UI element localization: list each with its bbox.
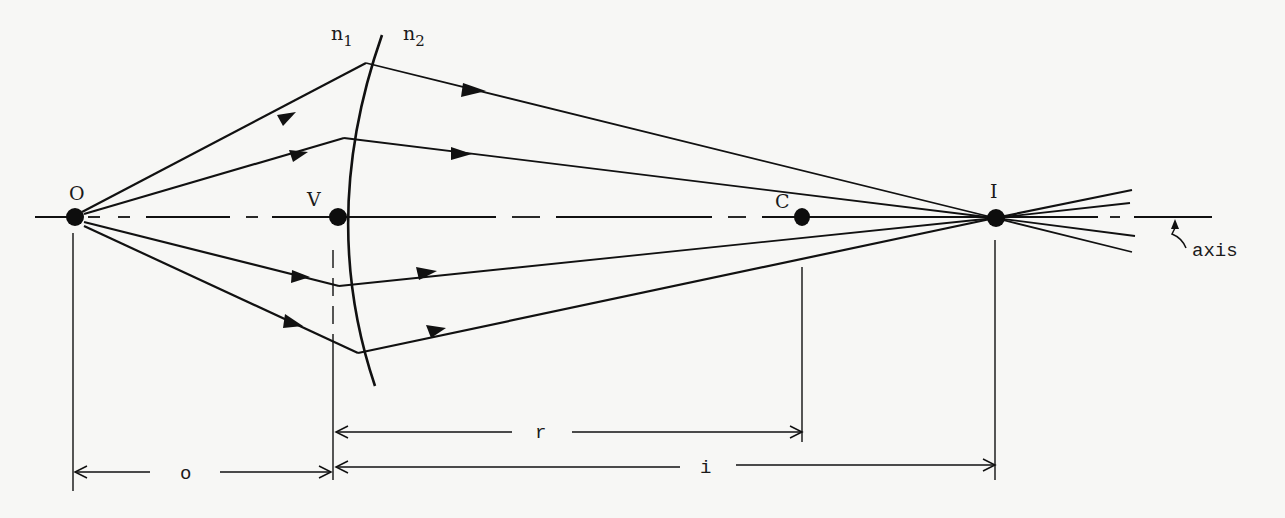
incident-arrowheads: [277, 112, 310, 328]
extension-lines: [73, 233, 995, 491]
medium-n1-label: n1: [331, 22, 353, 50]
svg-text:n2: n2: [403, 22, 425, 50]
axis-pointer: [1171, 219, 1186, 248]
svg-text:n1: n1: [331, 22, 353, 50]
vertex-point: [329, 208, 347, 226]
refracted-arrowheads: [416, 83, 486, 338]
image-distance-dimension: i: [336, 457, 995, 479]
object-distance-dimension: o: [75, 463, 331, 485]
image-distance-label: i: [700, 457, 711, 479]
refraction-diagram: O V C I n1 n2 axis r o: [0, 0, 1285, 518]
axis-label: axis: [1192, 240, 1238, 262]
vertex-label: V: [306, 188, 321, 210]
refracted-rays: [339, 63, 995, 353]
object-point: [66, 208, 84, 226]
diverging-rays: [995, 190, 1135, 252]
spherical-surface: [348, 35, 382, 386]
radius-label: r: [535, 422, 546, 444]
center-point: [794, 208, 810, 226]
radius-dimension: r: [336, 422, 802, 444]
incident-rays: [82, 63, 366, 353]
medium-n2-label: n2: [403, 22, 425, 50]
center-label: C: [775, 190, 790, 212]
object-label: O: [69, 182, 85, 204]
object-distance-label: o: [180, 463, 191, 485]
image-label: I: [990, 180, 998, 202]
image-point: [987, 209, 1005, 227]
